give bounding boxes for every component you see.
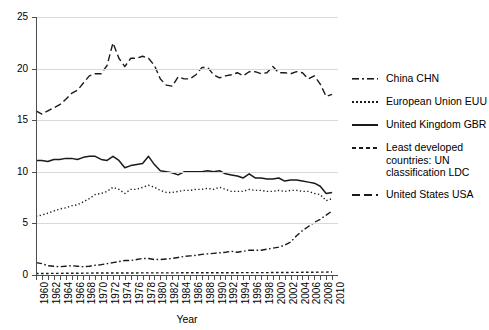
legend-line-solid-icon [352,124,378,126]
legend-line-dotted-icon [352,100,378,103]
x-tick-mark-1978 [143,276,144,280]
x-tick-label-2004: 2004 [301,282,311,304]
y-tick-label-0: 0 [2,270,28,280]
x-tick-label-1966: 1966 [76,282,86,304]
x-tick-label-1982: 1982 [170,282,180,304]
series-layer [36,17,338,275]
x-tick-mark-1960 [36,276,37,280]
series-line-uk [36,156,332,193]
series-line-ldc [36,272,332,273]
x-tick-mark-1996 [249,276,250,280]
legend-item-china[interactable]: China CHN [352,72,489,86]
series-line-china [36,211,332,267]
x-tick-mark-2004 [297,276,298,280]
x-tick-mark-1998 [261,276,262,280]
x-tick-label-1960: 1960 [40,282,50,304]
gridline-y-5 [36,223,338,224]
y-tick-label-15: 15 [2,115,28,125]
x-tick-label-2002: 2002 [289,282,299,304]
gridline-y-20 [36,69,338,70]
x-tick-mark-1989 [208,276,209,280]
x-tick-label-1972: 1972 [111,282,121,304]
x-axis-title: Year [36,314,338,325]
legend-item-european-union[interactable]: European Union EUU [352,95,489,109]
gridline-y-25 [36,17,338,18]
x-tick-label-1974: 1974 [123,282,133,304]
legend-line-longdash-icon [352,193,378,196]
x-tick-mark-1997 [255,276,256,280]
x-tick-mark-1984 [178,276,179,280]
x-tick-mark-1982 [166,276,167,280]
y-tick-label-20: 20 [2,64,28,74]
x-tick-label-1992: 1992 [229,282,239,304]
legend-item-united-kingdom[interactable]: United Kingdom GBR [352,118,489,132]
x-tick-mark-1979 [149,276,150,280]
x-axis-line [36,275,338,276]
x-tick-mark-1991 [220,276,221,280]
legend-label-united-states: United States USA [386,188,489,201]
x-tick-label-2006: 2006 [312,282,322,304]
x-tick-label-2008: 2008 [324,282,334,304]
x-tick-mark-2009 [326,276,327,280]
x-tick-label-1998: 1998 [265,282,275,304]
series-line-eu [36,185,332,216]
x-tick-label-1976: 1976 [135,282,145,304]
x-tick-mark-2003 [291,276,292,280]
plot-area [36,17,338,275]
x-tick-mark-1966 [72,276,73,280]
legend-item-united-states[interactable]: United States USA [352,188,489,202]
x-tick-mark-1974 [119,276,120,280]
x-tick-mark-2010 [332,276,333,280]
x-tick-label-1986: 1986 [194,282,204,304]
x-tick-mark-1973 [113,276,114,280]
gridline-y-15 [36,120,338,121]
x-tick-mark-2006 [308,276,309,280]
legend-line-shortdash-icon [352,146,378,149]
x-tick-mark-1969 [89,276,90,280]
x-tick-label-1988: 1988 [206,282,216,304]
legend-line-dashdot-icon [352,77,378,80]
legend-label-china: China CHN [386,72,489,85]
x-tick-label-1990: 1990 [218,282,228,304]
x-tick-mark-1970 [95,276,96,280]
x-tick-mark-1963 [54,276,55,280]
x-tick-mark-1964 [60,276,61,280]
y-tick-label-25: 25 [2,12,28,22]
gridline-y-10 [36,172,338,173]
x-tick-mark-1992 [225,276,226,280]
x-tick-mark-2005 [302,276,303,280]
legend-item-ldc[interactable]: Least developed countries: UN classifica… [352,141,489,179]
y-tick-label-5: 5 [2,218,28,228]
x-tick-mark-1980 [154,276,155,280]
x-tick-label-1996: 1996 [253,282,263,304]
chart-legend: China CHN European Union EUU United King… [352,72,489,211]
x-tick-mark-1971 [101,276,102,280]
x-tick-mark-2000 [273,276,274,280]
x-tick-mark-2002 [285,276,286,280]
x-tick-label-1994: 1994 [241,282,251,304]
x-tick-label-1968: 1968 [87,282,97,304]
legend-label-united-kingdom: United Kingdom GBR [386,118,489,131]
y-tick-label-10: 10 [2,167,28,177]
legend-label-ldc: Least developed countries: UN classifica… [386,141,489,179]
x-tick-mark-1981 [160,276,161,280]
x-tick-label-1980: 1980 [158,282,168,304]
x-tick-label-2010: 2010 [336,282,346,304]
x-tick-mark-1965 [66,276,67,280]
x-tick-mark-2001 [279,276,280,280]
x-tick-mark-1987 [196,276,197,280]
x-tick-mark-1976 [131,276,132,280]
x-tick-mark-1990 [214,276,215,280]
x-tick-label-1964: 1964 [64,282,74,304]
series-line-usa [36,43,332,114]
x-tick-mark-1961 [42,276,43,280]
x-tick-mark-1994 [237,276,238,280]
x-tick-mark-2007 [314,276,315,280]
x-tick-mark-1975 [125,276,126,280]
x-tick-mark-2008 [320,276,321,280]
x-tick-label-1970: 1970 [99,282,109,304]
x-tick-label-1984: 1984 [182,282,192,304]
x-tick-mark-1988 [202,276,203,280]
x-tick-mark-1999 [267,276,268,280]
x-tick-mark-1985 [184,276,185,280]
